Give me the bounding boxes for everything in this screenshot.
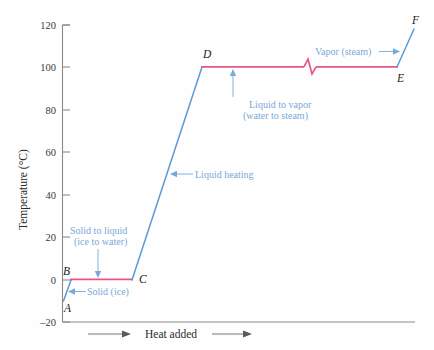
segment-liquid-heating xyxy=(132,67,202,280)
x-axis-left-arrowhead xyxy=(122,331,131,338)
annotation-solid-ice-text: Solid (ice) xyxy=(87,286,129,298)
annotation-vapor-steam-text: Vapor (steam) xyxy=(315,46,371,58)
y-tick-labels-group: 120 100 80 60 40 20 0 –20 xyxy=(39,20,56,328)
y-tick-label-40: 40 xyxy=(46,190,57,201)
annotation-liquid-to-vapor-line1: Liquid to vapor xyxy=(249,99,312,110)
y-tick-label-60: 60 xyxy=(46,147,57,158)
point-label-F: F xyxy=(411,14,420,26)
annotation-solid-to-liquid-line2: (ice to water) xyxy=(74,236,127,248)
y-tick-label-minus20: –20 xyxy=(39,317,56,328)
annotation-solid-ice-arrowhead xyxy=(68,288,75,294)
annotation-liquid-heating: Liquid heating xyxy=(170,169,254,180)
annotation-solid-to-liquid: Solid to liquid (ice to water) xyxy=(70,225,127,278)
y-tick-label-120: 120 xyxy=(40,20,56,31)
y-tick-label-100: 100 xyxy=(40,62,56,73)
point-label-D: D xyxy=(202,48,212,60)
point-label-B: B xyxy=(63,265,70,277)
annotation-liquid-heating-arrowhead xyxy=(170,171,177,177)
y-axis-title: Temperature (°C) xyxy=(17,149,30,230)
annotation-liquid-to-vapor: Liquid to vapor (water to steam) xyxy=(230,69,312,122)
y-tick-label-80: 80 xyxy=(46,105,57,116)
heating-curve-figure: 120 100 80 60 40 20 0 –20 Temperature (°… xyxy=(0,0,434,350)
y-tick-label-0: 0 xyxy=(51,275,56,286)
y-ticks-group xyxy=(63,25,71,322)
segment-vapor-heating xyxy=(397,29,414,67)
x-axis-right-arrowhead xyxy=(243,331,252,338)
segment-solid-ice-heating xyxy=(64,280,72,301)
point-label-E: E xyxy=(396,72,404,84)
annotation-vapor-steam-arrowhead xyxy=(393,48,400,54)
annotation-solid-to-liquid-line1: Solid to liquid xyxy=(70,225,127,236)
x-axis-title-group: Heat added xyxy=(88,328,252,340)
annotation-liquid-heating-text: Liquid heating xyxy=(195,169,254,180)
annotation-vapor-steam: Vapor (steam) xyxy=(315,46,400,58)
y-tick-label-20: 20 xyxy=(46,232,57,243)
annotation-liquid-to-vapor-line2: (water to steam) xyxy=(243,110,308,122)
chart-svg: 120 100 80 60 40 20 0 –20 Temperature (°… xyxy=(0,0,434,350)
annotation-liquid-to-vapor-arrowhead xyxy=(230,69,236,76)
annotation-solid-ice: Solid (ice) xyxy=(68,286,129,298)
x-axis-title: Heat added xyxy=(145,328,197,340)
point-label-C: C xyxy=(139,273,147,285)
axis-break-mark xyxy=(304,59,316,74)
point-label-A: A xyxy=(63,302,72,314)
annotation-solid-to-liquid-arrowhead xyxy=(95,271,101,278)
